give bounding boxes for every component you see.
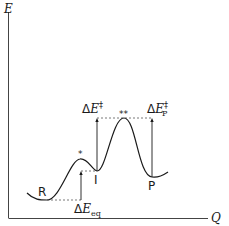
delta-e-eq-label: ΔEeq <box>74 203 101 217</box>
x-axis-label: Q <box>211 212 221 224</box>
arrow-eq-head <box>79 171 82 175</box>
double-dagger: ‡ <box>99 101 103 110</box>
p-subscript: P <box>162 109 167 118</box>
y-axis-label: E <box>4 3 13 15</box>
ts2-marker: ** <box>119 110 128 119</box>
delta-symbol: Δ <box>147 102 155 116</box>
state-label-r: R <box>38 186 46 198</box>
delta-e-i-barrier-label: ΔE‡ <box>82 103 103 117</box>
energy-diagram <box>0 0 229 226</box>
delta-symbol: Δ <box>74 202 82 216</box>
ts1-marker: * <box>78 150 83 159</box>
e-symbol: E <box>82 202 91 216</box>
energy-curve <box>27 118 168 200</box>
eq-subscript: eq <box>91 209 101 218</box>
state-label-p: P <box>148 180 155 192</box>
e-symbol: E <box>90 102 99 116</box>
state-label-i: I <box>94 174 98 186</box>
arrow-p-barrier-head <box>150 118 153 122</box>
delta-symbol: Δ <box>82 102 90 116</box>
arrow-i-barrier-head <box>95 118 98 122</box>
delta-e-p-barrier-label: ΔE‡P <box>147 103 167 117</box>
